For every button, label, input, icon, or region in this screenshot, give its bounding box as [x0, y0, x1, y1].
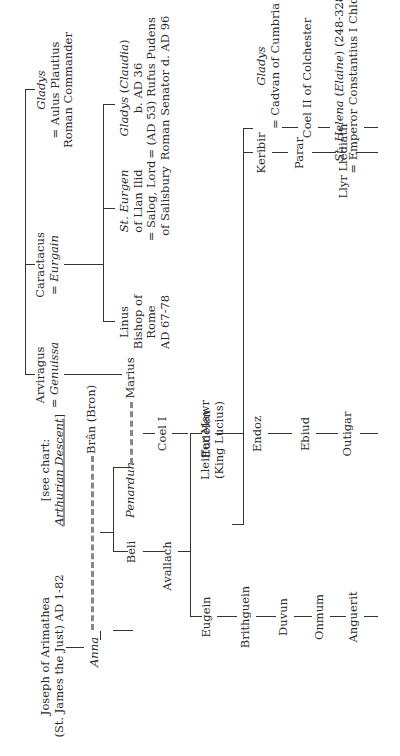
node-gladys-claudia: Gladys (Claudia) b. AD 36 = (AD 53) Rufu…	[118, 16, 172, 161]
node-brithguein: Brithguein	[239, 586, 253, 648]
connector-lleiffer-bracket	[243, 129, 244, 525]
connector-gladys-cadvan	[243, 128, 253, 129]
connector-linus	[103, 321, 115, 322]
connector-helena-continues	[364, 127, 378, 128]
node-endoz: Endoz	[251, 416, 265, 452]
node-penardun: Penardun	[124, 462, 138, 518]
node-onmum: Onmum	[313, 594, 327, 640]
node-bran: Brân (Bron)	[85, 385, 99, 454]
connector-coel1-lleiffer	[172, 433, 188, 434]
node-keribir: Keribir	[255, 133, 269, 174]
connector-caractacus-children	[64, 264, 103, 265]
connector-parents-drop	[100, 631, 101, 640]
marriage-line-anna-bran	[91, 456, 94, 630]
spouse-eurgain: Eurgain	[46, 235, 60, 282]
connector-brithguein-duvun	[256, 616, 276, 617]
connector-sibling-bar	[113, 468, 114, 552]
node-beli: Beli	[125, 541, 139, 564]
node-st-eurgen: St. Eurgen of Llan Ilid = Salog, Lord of…	[118, 161, 172, 242]
arthurian-descent-link[interactable]: Arthurian Descent	[51, 418, 65, 526]
family-tree-diagram: Joseph of Arimathea (St. James the Just)…	[0, 0, 400, 756]
connector-siblings-bracket	[25, 90, 26, 375]
node-lleiffer-mawr: Lleiffer Mawr (King Lucius)	[199, 400, 226, 480]
node-st-helena: St. Helena (Elaine) (248-328) = Emperor …	[333, 0, 360, 174]
node-joseph-of-arimathea: Joseph of Arimathea (St. James the Just)…	[39, 574, 66, 737]
connector-avallach-children	[178, 551, 190, 552]
connector-onmum-anguerit	[330, 616, 346, 617]
connector-lleiffer-to-bracket	[232, 524, 243, 525]
connector-arviragus-marius	[64, 374, 122, 375]
node-eugein: Eugein	[200, 596, 214, 637]
connector-avallach-bracket	[190, 434, 191, 617]
node-avallach: Avallach	[161, 541, 175, 590]
node-linus: Linus Bishop of Rome AD 67-78	[118, 295, 172, 350]
connector-lleiffer-descendants	[232, 433, 242, 434]
node-ebiud: Ebiud	[299, 417, 313, 451]
node-marius: Marius	[124, 357, 138, 398]
node-arviragus: Arviragus = Genuissa	[34, 342, 61, 408]
connector-keribir	[243, 152, 253, 153]
node-coel-ii: Coel II of Colchester	[301, 18, 315, 138]
connector-parents-to-children	[100, 532, 113, 533]
node-coel-i: Coel I	[156, 417, 170, 451]
connector-eugein-brithguein	[217, 616, 237, 617]
connector-marius-coel1	[143, 433, 155, 434]
connector-caractacus-bracket	[103, 105, 104, 322]
connector-ebiud-outigar	[316, 433, 338, 434]
spouse-genuissa: Genuissa	[46, 342, 60, 395]
connector-st-eurgen	[103, 208, 115, 209]
node-outigar: Outigar	[341, 412, 355, 457]
connector-anguerit-continues	[364, 616, 378, 617]
marriage-line-penardun-marius	[130, 402, 133, 464]
connector-gladys-coel2	[282, 127, 298, 128]
node-duvun: Duvun	[277, 598, 291, 636]
connector-duvun-onmum	[294, 616, 312, 617]
node-anguerit: Anguerit	[347, 591, 361, 642]
node-parar: Parar	[293, 137, 307, 169]
connector-joseph-anna	[66, 647, 84, 648]
connector-outigar-continues	[360, 433, 378, 434]
connector	[113, 630, 133, 631]
node-caractacus: Caractacus = Eurgain	[34, 232, 61, 298]
node-gladys-aulus: Gladys = Aulus Plautius Roman Commander	[35, 32, 76, 148]
connector-coel2-helena	[318, 127, 330, 128]
connector-keribir-parar	[272, 152, 288, 153]
see-chart-reference: [see chart: Arthurian Descent]	[39, 414, 66, 526]
connector-gladys-claudia	[103, 104, 115, 105]
connector-endoz-ebiud	[268, 433, 292, 434]
node-anna: Anna	[88, 637, 102, 667]
node-gladys-cadvan: Gladys = Cadvan of Cumbria	[255, 3, 282, 129]
